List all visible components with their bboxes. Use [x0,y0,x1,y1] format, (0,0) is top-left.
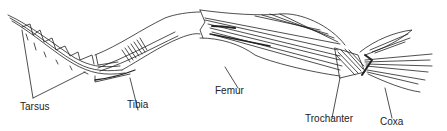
trochanter-drawing [335,48,365,78]
tarsus-label: Tarsus [20,102,49,112]
tarsus-drawing [8,15,125,74]
tarsus-leader-line-2 [33,72,85,98]
trochanter-leader-line [332,78,340,118]
femur-drawing [200,10,345,76]
coxa-label: Coxa [380,117,403,127]
tarsus-leader-line-1 [22,30,33,98]
trochanter-label: Trochanter [305,114,353,124]
tibia-label: Tibia [127,100,148,110]
leg-drawing [0,0,447,131]
tibia-drawing [95,12,200,82]
coxa-drawing [360,30,432,92]
femur-label: Femur [215,86,244,96]
insect-leg-diagram: Tarsus Tibia Femur Trochanter Coxa [0,0,447,131]
coxa-leader-line [385,88,392,118]
